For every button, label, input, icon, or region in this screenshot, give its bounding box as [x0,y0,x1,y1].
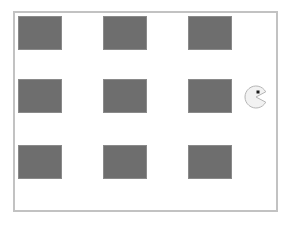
game-arena[interactable] [13,11,278,212]
wall-block [103,79,147,113]
wall-block [103,145,147,179]
pacman-body-wedge [245,86,266,108]
game-scene: Pac-Man Grid [0,0,291,229]
wall-block [188,145,232,179]
pacman-character[interactable] [243,84,269,110]
wall-block [103,16,147,50]
wall-block [188,79,232,113]
arena-playfield [15,13,276,210]
wall-block [188,16,232,50]
wall-block [18,79,62,113]
pacman-icon [243,84,269,110]
wall-block [18,16,62,50]
wall-block [18,145,62,179]
pacman-eye [257,91,260,94]
